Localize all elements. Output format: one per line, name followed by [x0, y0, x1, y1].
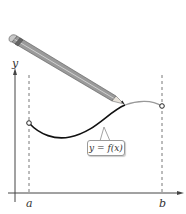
x-tick-label-a: a — [26, 198, 33, 209]
open-endpoint-b-icon — [160, 104, 165, 109]
function-label-callout: y = f(x) — [87, 140, 125, 156]
curve-drawn-segment — [29, 105, 125, 138]
x-tick-label-b: b — [159, 198, 166, 209]
curve-undrawn-segment — [125, 101, 162, 106]
diagram-canvas — [0, 0, 186, 214]
callout-pointer — [100, 127, 110, 141]
pencil-icon — [9, 35, 125, 105]
y-axis-label: y — [12, 58, 18, 69]
open-endpoint-a-icon — [27, 121, 32, 126]
x-axis-arrow-icon — [177, 191, 184, 195]
